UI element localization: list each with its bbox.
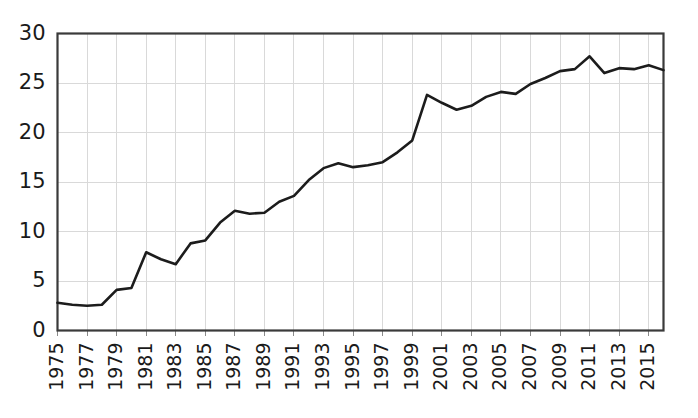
x-axis-tick-label: 1975	[45, 343, 67, 391]
line-chart: 051015202530 197519771979198119831985198…	[0, 0, 698, 418]
y-axis-labels: 051015202530	[19, 21, 46, 342]
y-axis-tick-label: 20	[19, 120, 46, 144]
y-axis-tick-label: 0	[32, 318, 45, 342]
x-axis-tick-label: 1995	[341, 343, 363, 391]
data-series-line	[58, 56, 664, 305]
x-axis-tick-label: 1997	[370, 343, 392, 391]
x-axis-tick-label: 2007	[518, 343, 540, 391]
x-axis-tick-label: 1981	[134, 343, 156, 391]
x-axis-tick-label: 2009	[548, 343, 570, 391]
x-axis-tick-label: 1985	[193, 343, 215, 391]
y-axis-tick-label: 5	[32, 268, 45, 292]
x-axis-tick-label: 1987	[222, 343, 244, 391]
x-axis-tick-label: 1983	[163, 343, 185, 391]
grid-lines	[58, 34, 664, 331]
y-axis-tick-label: 10	[19, 219, 46, 243]
x-axis-tick-label: 2003	[459, 343, 481, 391]
x-axis-tick-label: 1977	[75, 343, 97, 391]
chart-canvas: 051015202530 197519771979198119831985198…	[0, 0, 698, 418]
y-axis-tick-label: 25	[19, 70, 46, 94]
x-axis-tick-label: 2005	[488, 343, 510, 391]
x-axis-tick-label: 1999	[400, 343, 422, 391]
x-axis-tick-label: 1991	[281, 343, 303, 391]
x-axis-tick-label: 2015	[636, 343, 658, 391]
x-axis-tick-label: 1993	[311, 343, 333, 391]
x-axis-tick-label: 1979	[104, 343, 126, 391]
y-axis-tick-label: 30	[19, 21, 46, 45]
x-axis-tick-label: 2001	[429, 343, 451, 391]
x-axis-labels: 1975197719791981198319851987198919911993…	[45, 343, 658, 391]
y-axis-tick-label: 15	[19, 169, 46, 193]
x-axis-tick-label: 1989	[252, 343, 274, 391]
x-axis-tick-label: 2011	[577, 343, 599, 391]
x-axis-tick-label: 2013	[607, 343, 629, 391]
